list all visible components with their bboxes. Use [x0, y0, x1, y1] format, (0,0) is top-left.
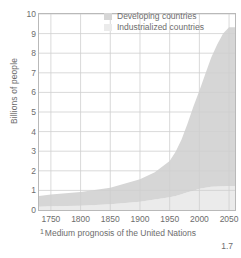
plot-area [38, 13, 236, 211]
chart-footnote: 1Medium prognosis of the United Nations [0, 228, 236, 238]
x-axis-tick-label: 1950 [160, 214, 179, 224]
x-axis-tick-label: 1850 [101, 214, 120, 224]
x-axis-tick-label: 1750 [41, 214, 60, 224]
legend-item: Developing countries [104, 11, 234, 21]
x-axis-tick-labels: 1750180018501900195020002050 [0, 214, 241, 226]
x-axis-tick-label: 2000 [190, 214, 209, 224]
legend-label-industrialized: Industrialized countries [117, 23, 204, 32]
y-axis-tick-label: 7 [16, 68, 36, 77]
population-growth-figure: Billions of people 012345678910 17501800… [0, 0, 241, 258]
legend-swatch-industrialized [104, 24, 112, 31]
figure-number: 1.7 [221, 241, 233, 251]
y-axis-tick-label: 6 [16, 88, 36, 97]
x-axis-tick-label: 2050 [220, 214, 239, 224]
legend-label-developing: Developing countries [117, 12, 196, 21]
footnote-text: Medium prognosis of the United Nations [45, 228, 196, 238]
y-axis-tick-label: 2 [16, 166, 36, 175]
y-axis-tick-label: 9 [16, 29, 36, 38]
y-axis-tick-label: 1 [16, 186, 36, 195]
y-axis-tick-label: 4 [16, 127, 36, 136]
x-axis-tick-label: 1900 [131, 214, 150, 224]
legend-item: Industrialized countries [104, 22, 234, 32]
y-axis-tick-label: 10 [16, 10, 36, 19]
y-axis-tick-label: 8 [16, 49, 36, 58]
chart-canvas [39, 14, 235, 210]
chart-legend: Developing countries Industrialized coun… [104, 11, 234, 33]
footnote-marker: 1 [40, 228, 44, 235]
x-axis-tick-label: 1800 [71, 214, 90, 224]
y-axis-tick-labels: 012345678910 [16, 8, 36, 214]
y-axis-tick-label: 3 [16, 147, 36, 156]
legend-swatch-developing [104, 13, 112, 20]
y-axis-tick-label: 5 [16, 108, 36, 117]
